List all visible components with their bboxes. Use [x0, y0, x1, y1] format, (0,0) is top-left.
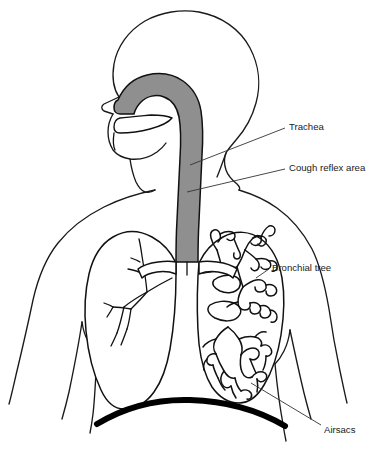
- respiratory-diagram: Respiratory system — head, trachea and l…: [0, 0, 383, 463]
- left-flank-outline: [62, 322, 82, 419]
- label-airsacs: Airsacs: [324, 424, 356, 435]
- right-flank-outline: [290, 330, 311, 419]
- anatomy-illustration: Respiratory system — head, trachea and l…: [0, 0, 383, 463]
- label-trachea: Trachea: [289, 121, 325, 132]
- tongue-shape: [114, 115, 172, 133]
- airsacs-leader-line: [251, 383, 321, 425]
- label-cough-reflex-area: Cough reflex area: [289, 162, 366, 173]
- trachea-leader-line: [190, 128, 285, 165]
- label-bronchial-tree: Bronchial tree: [272, 262, 331, 273]
- labels-group: Trachea Cough reflex area Bronchial tree…: [272, 121, 366, 435]
- right-lung-outline: [197, 232, 283, 403]
- neck-front-outline: [130, 159, 155, 192]
- soft-palate-line: [113, 133, 115, 150]
